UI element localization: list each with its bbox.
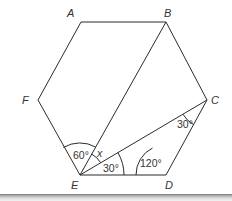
bottom-divider xyxy=(0,194,232,201)
diagram-canvas: A B C D E F 60° x 30° 120° 30° xyxy=(0,0,232,201)
label-F: F xyxy=(22,94,30,106)
angle-label-30-C: 30° xyxy=(177,118,193,130)
label-C: C xyxy=(211,94,219,106)
angle-labels: 60° x 30° 120° 30° xyxy=(73,118,193,174)
label-A: A xyxy=(66,7,74,19)
angle-label-x: x xyxy=(96,147,103,159)
angle-label-60: 60° xyxy=(73,149,89,161)
label-B: B xyxy=(164,7,171,19)
hexagon-outline xyxy=(38,22,207,175)
hexagon-diagram: A B C D E F 60° x 30° 120° 30° xyxy=(0,0,232,201)
angle-label-120: 120° xyxy=(140,157,162,169)
vertex-labels: A B C D E F xyxy=(22,7,219,191)
arc-60-at-E xyxy=(63,143,95,148)
angle-label-30-E: 30° xyxy=(103,162,119,174)
angle-arcs xyxy=(63,114,193,175)
diagonal-EB xyxy=(80,22,166,175)
label-E: E xyxy=(71,179,79,191)
label-D: D xyxy=(165,179,173,191)
